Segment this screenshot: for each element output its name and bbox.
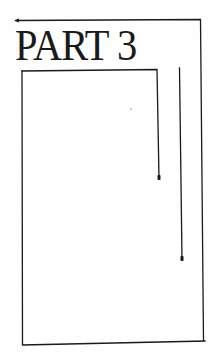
inner-box-left-bottom-line [22,71,205,345]
page-title: PART 3 [15,24,136,68]
line-end-blob [181,256,184,261]
long-vertical-line [180,68,183,259]
speck-dot [130,108,131,109]
line-end-blob [158,175,161,180]
inner-box-line [22,70,159,179]
book-part-title-page: PART 3 [0,0,219,363]
